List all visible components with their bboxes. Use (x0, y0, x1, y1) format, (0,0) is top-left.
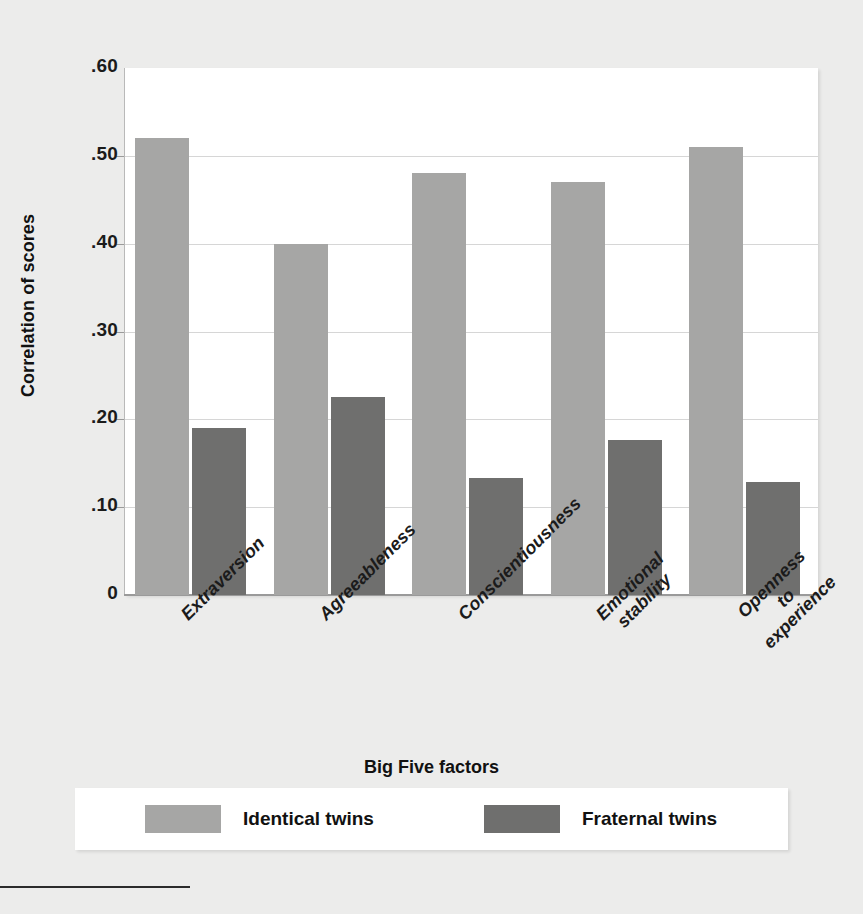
legend-swatch-fraternal-twins (484, 805, 560, 833)
legend-swatch-identical-twins (145, 805, 221, 833)
legend-item-identical-twins: Identical twins (145, 805, 374, 833)
y-tick-label: .60 (58, 55, 118, 77)
y-tick-label: .20 (58, 406, 118, 428)
legend-item-fraternal-twins: Fraternal twins (484, 805, 717, 833)
bar-identical-2 (412, 173, 466, 595)
y-tick-label: .50 (58, 143, 118, 165)
twin-correlation-bar-chart: .60.50.40.30.20.100 Correlation of score… (0, 0, 863, 914)
bar-identical-4 (689, 147, 743, 595)
bar-group-container (125, 68, 818, 595)
footnote-rule (0, 886, 190, 888)
bar-identical-0 (135, 138, 189, 595)
y-tick-label: .10 (58, 494, 118, 516)
x-axis-tick-labels: ExtraversionAgreeablenessConscientiousne… (0, 596, 863, 766)
x-axis-title: Big Five factors (0, 757, 863, 778)
legend-label-fraternal-twins: Fraternal twins (582, 808, 717, 830)
y-tick-label: .40 (58, 231, 118, 253)
chart-legend: Identical twins Fraternal twins (75, 788, 788, 850)
y-tick-label: .30 (58, 319, 118, 341)
bar-identical-1 (274, 244, 328, 595)
y-axis-title: Correlation of scores (18, 156, 39, 456)
legend-label-identical-twins: Identical twins (243, 808, 374, 830)
